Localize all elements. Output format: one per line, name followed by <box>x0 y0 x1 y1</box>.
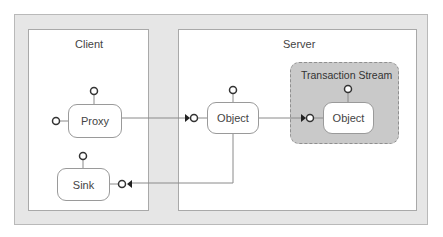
sink-node-label: Sink <box>73 179 94 191</box>
proxy-node[interactable]: Proxy <box>68 104 122 138</box>
sink-node[interactable]: Sink <box>57 168 110 201</box>
server-object-node[interactable]: Object <box>207 102 259 134</box>
stream-object-node-label: Object <box>333 112 365 124</box>
server-panel-label: Server <box>283 38 315 50</box>
stream-object-node[interactable]: Object <box>323 102 374 134</box>
proxy-node-label: Proxy <box>81 115 109 127</box>
server-object-node-label: Object <box>217 112 249 124</box>
transaction-stream-label: Transaction Stream <box>301 69 392 81</box>
client-panel-label: Client <box>75 38 103 50</box>
component-diagram: Client Server Transaction Stream Proxy S… <box>0 0 443 237</box>
